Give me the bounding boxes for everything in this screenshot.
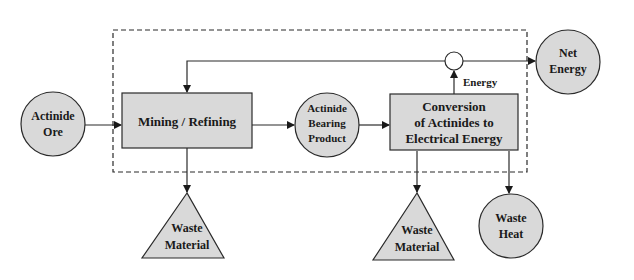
node-label: Net [559, 46, 577, 60]
node-label: Material [395, 240, 440, 254]
node-mining-refining: Mining / Refining [122, 93, 252, 148]
node-junction [445, 52, 463, 70]
actinide-energy-flow-diagram: Energy Actinide Ore Mining / Refining Ac… [0, 0, 634, 280]
node-label: Electrical Energy [405, 131, 503, 146]
feedback-edge [187, 61, 445, 92]
node-label: Bearing [308, 117, 346, 129]
node-waste-heat: Waste Heat [479, 194, 543, 258]
node-label: Ore [43, 125, 63, 139]
node-label: Heat [499, 227, 524, 241]
node-label: Energy [549, 62, 586, 76]
node-label: Material [165, 238, 210, 252]
energy-edge-label: Energy [463, 76, 498, 88]
node-label: Mining / Refining [138, 114, 237, 129]
node-net-energy: Net Energy [536, 30, 600, 94]
node-label: Actinide [31, 109, 75, 123]
node-label: Product [308, 132, 346, 144]
node-waste-material-2: Waste Material [373, 193, 454, 260]
node-label: Conversion [422, 99, 486, 114]
node-label: Waste [171, 221, 203, 235]
node-actinide-ore: Actinide Ore [21, 92, 85, 156]
node-label: Waste [495, 211, 527, 225]
node-label: Actinide [307, 102, 347, 114]
node-actinide-bearing-product: Actinide Bearing Product [295, 93, 359, 157]
node-waste-material-1: Waste Material [142, 193, 224, 258]
node-conversion: Conversion of Actinides to Electrical En… [390, 94, 518, 150]
node-label: Waste [401, 223, 433, 237]
node-label: of Actinides to [414, 115, 493, 130]
